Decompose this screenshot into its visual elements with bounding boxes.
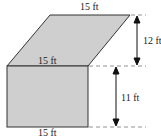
rectangle <box>7 66 88 127</box>
parallelogram-bottom-label: 15 ft <box>38 56 57 66</box>
parallelogram <box>7 15 130 66</box>
figure <box>0 0 161 138</box>
height-label-12: 12 ft <box>143 36 161 46</box>
height-arrow-11 <box>113 67 119 126</box>
height-arrow-12 <box>134 16 140 65</box>
parallelogram-top-label: 15 ft <box>80 2 99 12</box>
height-label-11: 11 ft <box>121 93 139 103</box>
rectangle-bottom-label: 15 ft <box>38 128 57 138</box>
